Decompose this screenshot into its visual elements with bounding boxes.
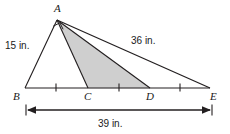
vertex-label-A: A bbox=[54, 3, 61, 14]
side-AB bbox=[25, 20, 57, 88]
measure-label-BE: 39 in. bbox=[98, 119, 122, 129]
vertex-label-E: E bbox=[210, 91, 217, 102]
dimension-arrowhead-left-icon bbox=[27, 106, 36, 114]
figure-canvas bbox=[0, 0, 230, 134]
measure-label-AE: 36 in. bbox=[131, 36, 155, 46]
geometry-figure: A B C D E 15 in. 36 in. 39 in. bbox=[0, 0, 230, 134]
vertex-label-D: D bbox=[146, 91, 154, 102]
dimension-arrowhead-right-icon bbox=[202, 106, 211, 114]
measure-label-AB: 15 in. bbox=[5, 41, 29, 51]
vertex-label-C: C bbox=[84, 91, 91, 102]
vertex-label-B: B bbox=[13, 91, 20, 102]
